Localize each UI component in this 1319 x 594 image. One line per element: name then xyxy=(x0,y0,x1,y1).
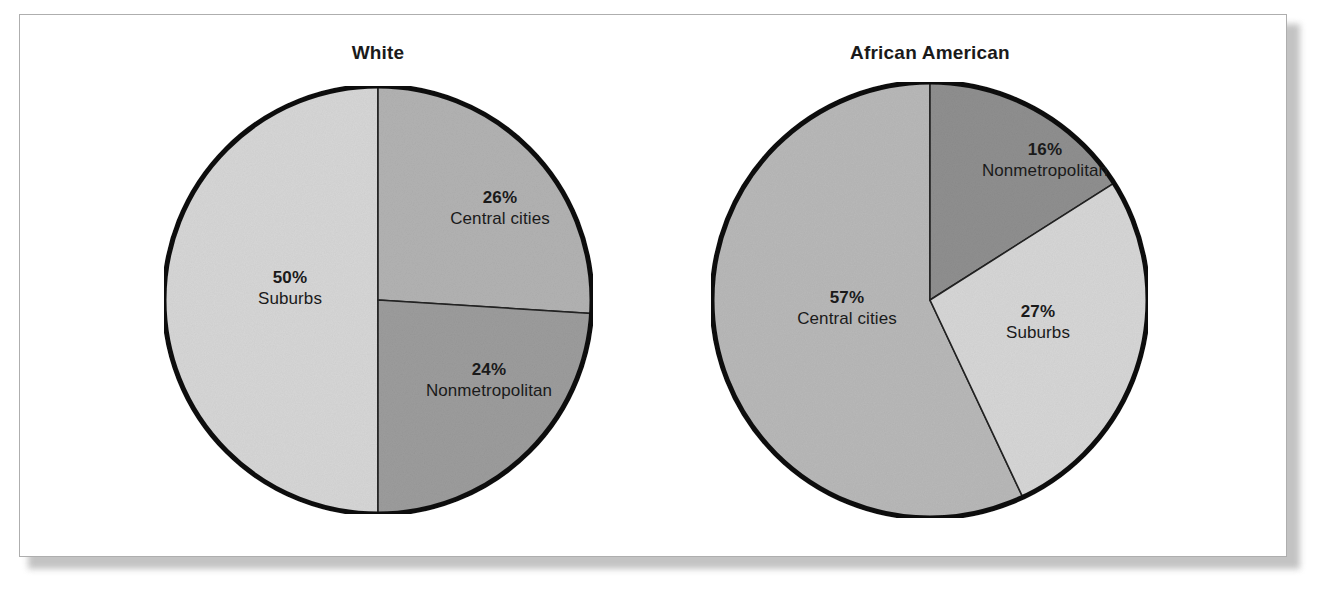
slice-label-aa-central-cities: 57% Central cities xyxy=(742,288,952,329)
slice-name-white-suburbs: Suburbs xyxy=(190,289,390,310)
slice-name-white-central-cities: Central cities xyxy=(400,209,600,230)
slice-label-aa-suburbs: 27% Suburbs xyxy=(948,302,1128,343)
slice-value-white-central-cities: 26% xyxy=(400,188,600,209)
slice-name-aa-suburbs: Suburbs xyxy=(948,323,1128,344)
slice-label-aa-nonmetropolitan: 16% Nonmetropolitan xyxy=(930,140,1160,181)
pie-title-white: White xyxy=(278,42,478,64)
slice-value-aa-suburbs: 27% xyxy=(948,302,1128,323)
slice-value-white-suburbs: 50% xyxy=(190,268,390,289)
slice-white-nonmetropolitan[interactable] xyxy=(378,300,592,514)
slice-value-white-nonmetropolitan: 24% xyxy=(374,360,604,381)
slice-label-white-central-cities: 26% Central cities xyxy=(400,188,600,229)
figure-root: White African American 26% Central citie… xyxy=(0,0,1319,594)
slice-name-white-nonmetropolitan: Nonmetropolitan xyxy=(374,381,604,402)
slice-name-aa-central-cities: Central cities xyxy=(742,309,952,330)
slice-value-aa-central-cities: 57% xyxy=(742,288,952,309)
slice-label-white-nonmetropolitan: 24% Nonmetropolitan xyxy=(374,360,604,401)
slice-value-aa-nonmetropolitan: 16% xyxy=(930,140,1160,161)
slice-name-aa-nonmetropolitan: Nonmetropolitan xyxy=(930,161,1160,182)
slice-label-white-suburbs: 50% Suburbs xyxy=(190,268,390,309)
pie-title-african-american: African American xyxy=(800,42,1060,64)
